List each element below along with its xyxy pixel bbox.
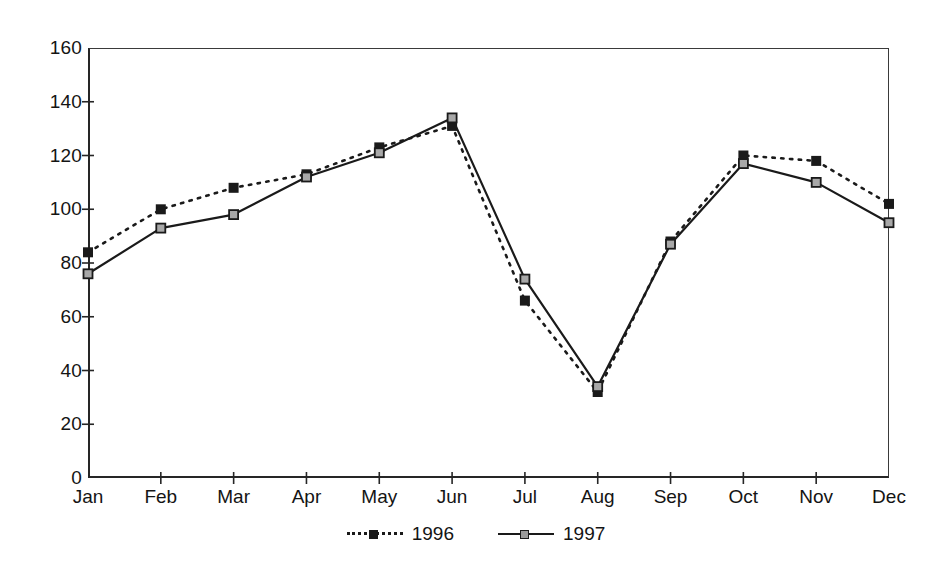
legend-item-1997[interactable]: 1997 [498,524,605,543]
data-point-marker-1997 [448,113,457,122]
x-tick-label: Aug [563,486,633,508]
data-point-marker-1997 [885,218,894,227]
data-point-marker-1997 [156,224,165,233]
data-point-marker-1997 [812,178,821,187]
axis-ticks-group [82,102,816,484]
x-tick-label: Jul [490,486,560,508]
series-line-1997 [88,118,889,387]
y-tick-label: 160 [38,38,82,57]
legend-label-1996: 1996 [412,524,454,543]
x-tick-label: Oct [708,486,778,508]
y-tick-label: 0 [38,468,82,487]
data-point-marker-1996 [156,204,166,214]
x-tick-label: Feb [126,486,196,508]
y-tick-label: 140 [38,92,82,111]
data-point-marker-1997 [302,173,311,182]
line-chart-figure: 020406080100120140160 JanFebMarAprMayJun… [0,0,952,569]
data-point-marker-1996 [83,247,93,257]
legend-swatch-dotted-square-icon [347,527,403,541]
x-tick-label: Jun [417,486,487,508]
y-tick-label: 40 [38,361,82,380]
y-tick-label: 80 [38,253,82,272]
legend-label-1997: 1997 [563,524,605,543]
chart-legend: 1996 1997 [0,524,952,543]
data-point-marker-1996 [811,156,821,166]
series-line-1996 [88,126,889,392]
x-axis: JanFebMarAprMayJunJulAugSepOctNovDec [0,486,952,520]
legend-swatch-solid-square-icon [498,527,554,541]
legend-item-1996[interactable]: 1996 [347,524,454,543]
x-tick-label: Apr [271,486,341,508]
data-point-marker-1996 [520,296,530,306]
data-point-marker-1997 [520,275,529,284]
x-tick-label: Sep [636,486,706,508]
x-tick-label: Mar [199,486,269,508]
data-point-marker-1997 [375,148,384,157]
data-point-marker-1996 [884,199,894,209]
data-point-marker-1997 [739,159,748,168]
data-point-marker-1997 [84,269,93,278]
x-tick-label: Dec [854,486,924,508]
data-point-marker-1996 [229,183,239,193]
x-tick-label: May [344,486,414,508]
y-tick-label: 20 [38,414,82,433]
y-axis: 020406080100120140160 [24,0,82,569]
y-tick-label: 60 [38,307,82,326]
data-point-marker-1997 [666,240,675,249]
data-series-group [83,113,894,397]
data-point-marker-1997 [593,382,602,391]
x-tick-label: Jan [53,486,123,508]
y-tick-label: 120 [38,146,82,165]
y-tick-label: 100 [38,199,82,218]
x-tick-label: Nov [781,486,851,508]
plot-series-canvas [0,0,952,569]
data-point-marker-1997 [229,210,238,219]
